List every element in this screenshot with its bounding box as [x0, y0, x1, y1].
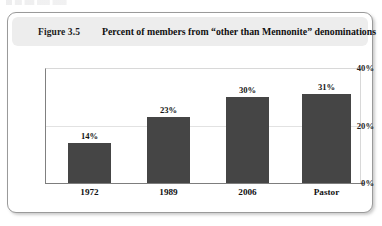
bar-2006[interactable] — [226, 97, 269, 183]
chart-plot: 40% 20% 0% 14% 1972 23% 1989 30% 2006 31… — [8, 13, 374, 214]
bar-1972[interactable] — [68, 143, 111, 183]
bar-group-1972: 14% 1972 — [59, 68, 120, 183]
category-label-1972: 1972 — [59, 187, 120, 197]
bar-1989[interactable] — [147, 117, 190, 183]
bars-layer: 14% 1972 23% 1989 30% 2006 31% Pastor — [46, 68, 361, 183]
bar-value-label: 14% — [59, 131, 120, 141]
bar-value-label: 31% — [296, 82, 357, 92]
category-label-2006: 2006 — [217, 187, 278, 197]
figure-card: Figure 3.5 Percent of members from “othe… — [7, 12, 373, 213]
scan-edge-artifact — [6, 0, 76, 5]
x-axis-baseline — [45, 183, 364, 184]
bar-group-2006: 30% 2006 — [217, 68, 278, 183]
category-label-pastor: Pastor — [296, 187, 357, 197]
bar-group-1989: 23% 1989 — [138, 68, 199, 183]
bar-group-pastor: 31% Pastor — [296, 68, 357, 183]
bar-value-label: 23% — [138, 105, 199, 115]
bar-value-label: 30% — [217, 85, 278, 95]
category-label-1989: 1989 — [138, 187, 199, 197]
bar-pastor[interactable] — [302, 94, 351, 183]
